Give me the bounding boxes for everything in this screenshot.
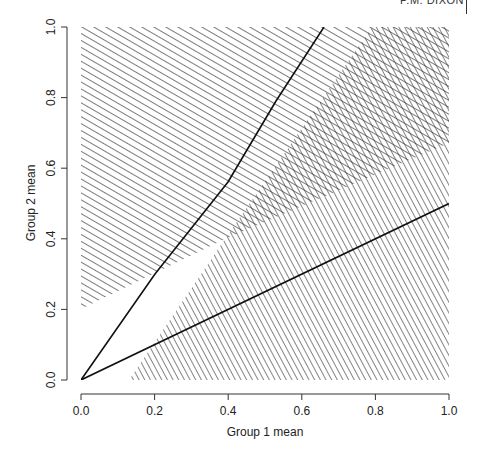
plot-area xyxy=(81,27,449,380)
y-tick-label: 1.0 xyxy=(44,18,58,35)
x-tick-label: 1.0 xyxy=(441,404,458,418)
y-tick-label: 0.6 xyxy=(44,160,58,177)
x-axis-title: Group 1 mean xyxy=(227,425,304,439)
y-axis: 0.0 0.2 0.4 0.6 0.8 1.0 Group 2 mean xyxy=(24,18,67,388)
region-chart: 0.0 0.2 0.4 0.6 0.8 1.0 Group 2 mean 0.0… xyxy=(0,0,480,459)
y-tick-label: 0.8 xyxy=(44,89,58,106)
y-axis-title: Group 2 mean xyxy=(24,165,38,242)
x-tick-label: 0.8 xyxy=(367,404,384,418)
x-axis: 0.0 0.2 0.4 0.6 0.8 1.0 Group 1 mean xyxy=(73,394,458,439)
x-tick-label: 0.0 xyxy=(73,404,90,418)
x-tick-label: 0.4 xyxy=(220,404,237,418)
y-tick-label: 0.0 xyxy=(44,371,58,388)
y-tick-label: 0.4 xyxy=(44,230,58,247)
x-tick-label: 0.2 xyxy=(146,404,163,418)
x-tick-label: 0.6 xyxy=(293,404,310,418)
y-tick-label: 0.2 xyxy=(44,301,58,318)
